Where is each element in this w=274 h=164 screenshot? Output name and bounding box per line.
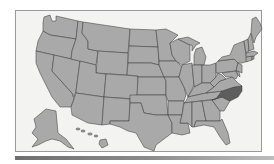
state-hawaii[interactable]: [76, 128, 108, 148]
state-nebraska[interactable]: [127, 63, 164, 77]
state-alaska[interactable]: [32, 109, 74, 149]
state-north-dakota[interactable]: [129, 29, 158, 47]
state-maine[interactable]: [251, 17, 262, 43]
us-map-frame: [15, 10, 262, 152]
us-map: [16, 11, 263, 153]
state-florida[interactable]: [194, 119, 230, 145]
state-arizona[interactable]: [71, 93, 104, 125]
bottom-divider-bar: [15, 156, 274, 160]
state-south-dakota[interactable]: [128, 46, 159, 65]
state-wyoming[interactable]: [96, 51, 128, 75]
state-montana[interactable]: [82, 22, 130, 53]
state-rhode-island[interactable]: [252, 56, 254, 60]
state-kansas[interactable]: [137, 77, 166, 95]
state-arkansas[interactable]: [168, 101, 184, 115]
